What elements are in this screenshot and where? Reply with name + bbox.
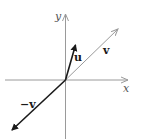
vector-diagram: y x u v −v [0, 0, 142, 139]
x-axis-label: x [123, 82, 130, 95]
y-axis-label: y [54, 10, 62, 23]
vector-v-label: v [102, 44, 110, 57]
vector-neg-v-label: −v [20, 98, 36, 111]
vector-u-label: u [74, 51, 82, 64]
